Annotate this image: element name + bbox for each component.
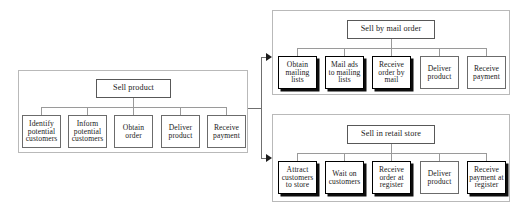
tree-line-branch-3 — [391, 153, 392, 161]
tree-line-branch-5 — [226, 107, 227, 115]
node-deliver-product[interactable]: Deliver product — [161, 115, 200, 148]
connector-riser — [261, 57, 262, 158]
node-label: Deliver product — [421, 170, 458, 185]
node-label: Receive payment at register — [468, 166, 505, 189]
node-obtain-order[interactable]: Obtain order — [114, 115, 153, 148]
node-receive-order-by-mail[interactable]: Receive order by mail — [372, 56, 411, 89]
node-identify-potential-customers[interactable]: Identify potential customers — [22, 115, 61, 148]
node-label: Receive payment — [468, 65, 505, 80]
node-label: Wait on customers — [326, 170, 363, 185]
tree-line-branch-5 — [486, 153, 487, 161]
node-label: Mail ads to mailing lists — [326, 61, 363, 84]
node-label: Attract customers to store — [279, 166, 316, 189]
tree-line-branch-2 — [87, 107, 88, 115]
node-inform-potential-customers[interactable]: Inform potential customers — [68, 115, 107, 148]
node-deliver-product[interactable]: Deliver product — [420, 56, 459, 89]
node-obtain-mailing-lists[interactable]: Obtain mailing lists — [278, 56, 317, 89]
tree-line-branch-1 — [297, 48, 298, 56]
node-label: Inform potential customers — [69, 120, 106, 143]
arrow-to-mail-order-panel — [266, 53, 272, 61]
tree-line-branch-5 — [486, 48, 487, 56]
panel-sell-in-retail-store: Sell in retail store Attract customers t… — [272, 114, 510, 202]
tree-line-branch-3 — [391, 48, 392, 56]
node-mail-ads-to-mailing-lists[interactable]: Mail ads to mailing lists — [325, 56, 364, 89]
node-receive-payment[interactable]: Receive payment — [207, 115, 246, 148]
node-label: Identify potential customers — [23, 120, 60, 143]
node-label: Deliver product — [421, 65, 458, 80]
node-sell-by-mail-order[interactable]: Sell by mail order — [347, 20, 435, 39]
node-receive-order-at-register[interactable]: Receive order at register — [372, 161, 411, 194]
node-receive-payment[interactable]: Receive payment — [467, 56, 506, 89]
tree-line-branch-2 — [344, 48, 345, 56]
node-label: Receive payment — [208, 124, 245, 139]
tree-line-branch-3 — [133, 107, 134, 115]
tree-line-branch-4 — [439, 48, 440, 56]
node-receive-payment-at-register[interactable]: Receive payment at register — [467, 161, 506, 194]
node-label: Obtain order — [115, 124, 152, 139]
diagram-canvas: Sell product Identify potential customer… — [0, 0, 517, 209]
tree-line-branch-1 — [297, 153, 298, 161]
tree-line-branch-4 — [180, 107, 181, 115]
connector-stem-out — [248, 108, 261, 109]
node-deliver-product[interactable]: Deliver product — [420, 161, 459, 194]
arrow-to-retail-store-panel — [266, 154, 272, 162]
tree-line-root-stem — [391, 144, 392, 153]
node-label: Sell by mail order — [348, 25, 434, 33]
panel-sell-by-mail-order: Sell by mail order Obtain mailing lists … — [272, 10, 510, 95]
node-label: Deliver product — [162, 124, 199, 139]
tree-line-root-stem — [391, 39, 392, 48]
tree-line-branch-2 — [344, 153, 345, 161]
node-label: Receive order by mail — [373, 61, 410, 84]
node-wait-on-customers[interactable]: Wait on customers — [325, 161, 364, 194]
panel-sell-product: Sell product Identify potential customer… — [18, 70, 248, 153]
node-label: Sell product — [97, 84, 170, 92]
tree-line-branch-1 — [41, 107, 42, 115]
node-attract-customers-to-store[interactable]: Attract customers to store — [278, 161, 317, 194]
node-label: Sell in retail store — [348, 130, 434, 138]
node-sell-in-retail-store[interactable]: Sell in retail store — [347, 125, 435, 144]
node-label: Receive order at register — [373, 166, 410, 189]
node-sell-product[interactable]: Sell product — [96, 79, 171, 98]
tree-line-root-stem — [133, 98, 134, 107]
tree-line-branch-4 — [439, 153, 440, 161]
node-label: Obtain mailing lists — [279, 61, 316, 84]
